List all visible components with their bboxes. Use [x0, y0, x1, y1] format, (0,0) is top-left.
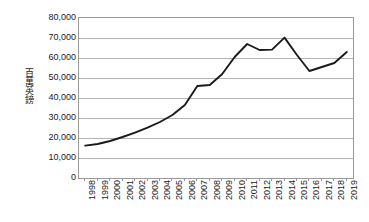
x-axis-tick-mark [259, 178, 260, 181]
x-axis-tick-label: 2007 [200, 180, 209, 200]
x-axis-tick-label: 2002 [138, 180, 147, 200]
y-axis-tick-labels: 80,00070,00060,00050,00040,00030,00020,0… [32, 0, 76, 222]
x-axis-tick-label: 2009 [225, 180, 234, 200]
y-axis-tick-label: 30,000 [34, 113, 76, 122]
x-axis-tick-mark [196, 178, 197, 181]
y-axis-tick-label: 50,000 [34, 73, 76, 82]
x-axis-tick-mark [333, 178, 334, 181]
x-axis-tick-label: 2015 [300, 180, 309, 200]
x-axis-tick-mark [209, 178, 210, 181]
x-axis-tick-label: 2010 [238, 180, 247, 200]
x-axis-tick-mark [109, 178, 110, 181]
x-axis-tick-mark [221, 178, 222, 181]
x-axis-tick-mark [271, 178, 272, 181]
x-axis-tick-mark [346, 178, 347, 181]
x-axis-tick-mark [184, 178, 185, 181]
line-chart: 百萬英鎊 80,00070,00060,00050,00040,00030,00… [0, 0, 369, 222]
y-axis-tick-label: 20,000 [34, 133, 76, 142]
x-axis-tick-label: 2017 [325, 180, 334, 200]
x-axis-tick-label: 2011 [250, 180, 259, 199]
y-axis-tick-label: 70,000 [34, 33, 76, 42]
x-axis-tick-mark [171, 178, 172, 181]
x-axis-tick-label: 2019 [350, 180, 359, 200]
x-axis-tick-mark [84, 178, 85, 181]
x-axis-tick-label: 2008 [213, 180, 222, 200]
x-axis-tick-label: 2013 [275, 180, 284, 200]
x-axis-tick-mark [321, 178, 322, 181]
x-axis-tick-mark [134, 178, 135, 181]
x-axis-tick-mark [97, 178, 98, 181]
x-axis-tick-mark [308, 178, 309, 181]
y-axis-tick-label: 10,000 [34, 153, 76, 162]
x-axis-tick-label: 1998 [88, 180, 97, 200]
x-axis-tick-mark [147, 178, 148, 181]
x-axis-tick-mark [234, 178, 235, 181]
x-axis-tick-label: 2014 [288, 180, 297, 200]
x-axis-tick-label: 2018 [337, 180, 346, 200]
x-axis-tick-label: 2005 [175, 180, 184, 200]
x-axis-tick-label: 1999 [101, 180, 110, 200]
plot-area [78, 17, 354, 179]
series-line [79, 18, 353, 178]
x-axis-tick-mark [159, 178, 160, 181]
x-axis-tick-label: 2012 [263, 180, 272, 200]
x-axis-tick-label: 2000 [113, 180, 122, 200]
x-axis-tick-label: 2001 [126, 180, 135, 200]
x-axis-tick-label: 2016 [312, 180, 321, 200]
x-axis-tick-labels: 1998199920002001200220032004200520062007… [78, 178, 352, 222]
x-axis-tick-mark [122, 178, 123, 181]
y-axis-tick-label: 40,000 [34, 93, 76, 102]
x-axis-tick-label: 2003 [151, 180, 160, 200]
x-axis-tick-mark [246, 178, 247, 181]
x-axis-tick-label: 2006 [188, 180, 197, 200]
y-axis-tick-label: 80,000 [34, 13, 76, 22]
y-axis-tick-label: 60,000 [34, 53, 76, 62]
x-axis-tick-mark [296, 178, 297, 181]
x-axis-tick-label: 2004 [163, 180, 172, 200]
y-axis-tick-label: 0 [34, 173, 76, 182]
x-axis-tick-mark [284, 178, 285, 181]
